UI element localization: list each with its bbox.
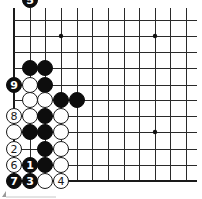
white-stone-icon [7, 125, 22, 140]
black-stone [38, 125, 53, 140]
black-stone-icon [23, 61, 38, 76]
black-stone [38, 61, 53, 76]
black-stone: 9 [7, 78, 22, 93]
black-stone-icon [38, 109, 53, 124]
white-stone [23, 109, 38, 124]
white-stone [23, 93, 38, 108]
black-stone: 3 [23, 174, 38, 189]
white-stone [54, 125, 69, 140]
black-stone: 1 [23, 158, 38, 173]
move-number-label: 5 [26, 0, 34, 7]
move-number-label: 4 [58, 175, 65, 188]
black-stone-icon [38, 61, 53, 76]
black-stone-icon [70, 93, 85, 108]
white-stone-icon [23, 93, 38, 108]
black-stone-icon [38, 125, 53, 140]
move-number-label: 1 [26, 159, 34, 172]
black-stone: 5 [23, 0, 38, 8]
white-stone [54, 109, 69, 124]
black-stone-icon [38, 78, 53, 93]
white-stone-icon [54, 109, 69, 124]
black-stone-icon [38, 158, 53, 173]
white-stone-icon [23, 78, 38, 93]
black-stone [38, 142, 53, 157]
white-stone-icon [23, 109, 38, 124]
black-stone [38, 78, 53, 93]
white-stone-icon [38, 174, 53, 189]
white-stone-icon [54, 125, 69, 140]
black-stone-icon [23, 125, 38, 140]
black-stone-icon [38, 142, 53, 157]
black-stone [23, 125, 38, 140]
move-number-label: 2 [11, 143, 18, 156]
move-number-label: 6 [11, 159, 18, 172]
star-point-icon [153, 34, 157, 38]
white-stone [23, 78, 38, 93]
black-stone [23, 61, 38, 76]
white-stone: 4 [54, 174, 69, 189]
black-stone: 7 [7, 174, 22, 189]
scan-corner-mark [2, 191, 6, 197]
go-board-diagram: 982617345 [0, 0, 202, 199]
black-stone [38, 109, 53, 124]
white-stone [38, 174, 53, 189]
white-stone [54, 142, 69, 157]
white-stone: 2 [7, 142, 22, 157]
white-stone-icon [54, 142, 69, 157]
white-stone: 8 [7, 109, 22, 124]
white-stone [54, 158, 69, 173]
move-number-label: 3 [26, 175, 34, 188]
black-stone [54, 93, 69, 108]
white-stone [38, 93, 53, 108]
white-stone-icon [54, 158, 69, 173]
white-stone-icon [38, 93, 53, 108]
star-point-icon [153, 130, 157, 134]
white-stone [7, 125, 22, 140]
black-stone [70, 93, 85, 108]
move-number-label: 7 [10, 175, 18, 188]
white-stone: 6 [7, 158, 22, 173]
scan-artifact [2, 191, 56, 197]
black-stone [38, 158, 53, 173]
move-number-label: 9 [10, 79, 18, 92]
move-number-label: 8 [11, 110, 18, 123]
black-stone-icon [54, 93, 69, 108]
star-point-icon [59, 34, 63, 38]
